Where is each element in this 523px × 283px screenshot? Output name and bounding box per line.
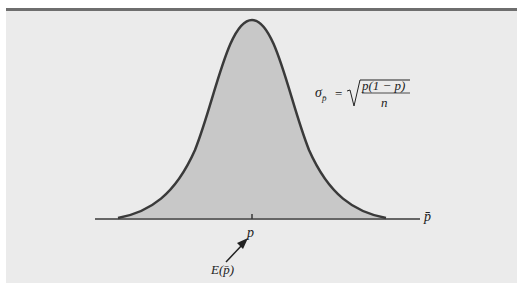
x-axis-label: p̄ [424,209,431,225]
curve-area [118,20,386,218]
center-label: p [247,225,254,241]
sigma-label: σp̄ [315,85,326,103]
formula-numerator: p(1 − p) [362,78,405,94]
arrow-line [226,244,243,262]
equals-sign: = [335,86,342,102]
expected-value-label: E(p̄) [211,262,234,278]
formula-denominator: n [381,95,388,111]
